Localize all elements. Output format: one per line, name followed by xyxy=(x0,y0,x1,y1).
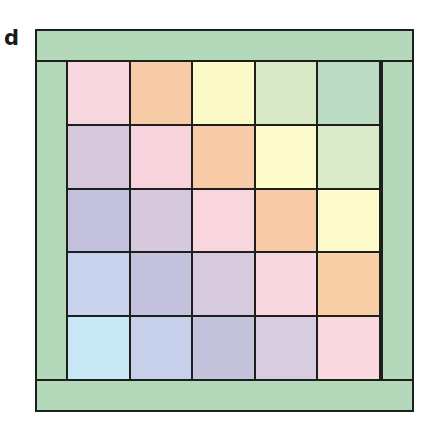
grid-cell-r4-c3 xyxy=(193,253,254,315)
grid-cell-r5-c5 xyxy=(318,317,379,379)
border-band-bottom xyxy=(37,379,412,410)
color-grid xyxy=(68,62,381,379)
grid-cell-r4-c2 xyxy=(131,253,192,315)
border-band-top xyxy=(37,31,412,62)
grid-cell-r5-c1 xyxy=(68,317,129,379)
grid-cell-r3-c5 xyxy=(318,190,379,252)
grid-cell-r2-c5 xyxy=(318,126,379,188)
grid-cell-r3-c2 xyxy=(131,190,192,252)
grid-cell-r4-c5 xyxy=(318,253,379,315)
grid-cell-r5-c4 xyxy=(256,317,317,379)
grid-cell-r4-c4 xyxy=(256,253,317,315)
grid-cell-r1-c4 xyxy=(256,62,317,124)
grid-cell-r1-c5 xyxy=(318,62,379,124)
grid-cell-r1-c2 xyxy=(131,62,192,124)
grid-cell-r3-c1 xyxy=(68,190,129,252)
grid-cell-r2-c4 xyxy=(256,126,317,188)
grid-cell-r2-c1 xyxy=(68,126,129,188)
grid-cell-r3-c3 xyxy=(193,190,254,252)
grid-cell-r2-c3 xyxy=(193,126,254,188)
grid-cell-r3-c4 xyxy=(256,190,317,252)
border-band-left xyxy=(37,62,68,379)
border-band-right xyxy=(381,62,412,379)
grid-cell-r4-c1 xyxy=(68,253,129,315)
grid-frame xyxy=(35,29,414,412)
grid-cell-r1-c1 xyxy=(68,62,129,124)
grid-cell-r2-c2 xyxy=(131,126,192,188)
panel-label: d xyxy=(4,28,19,49)
grid-cell-r1-c3 xyxy=(193,62,254,124)
grid-cell-r5-c2 xyxy=(131,317,192,379)
grid-cell-r5-c3 xyxy=(193,317,254,379)
